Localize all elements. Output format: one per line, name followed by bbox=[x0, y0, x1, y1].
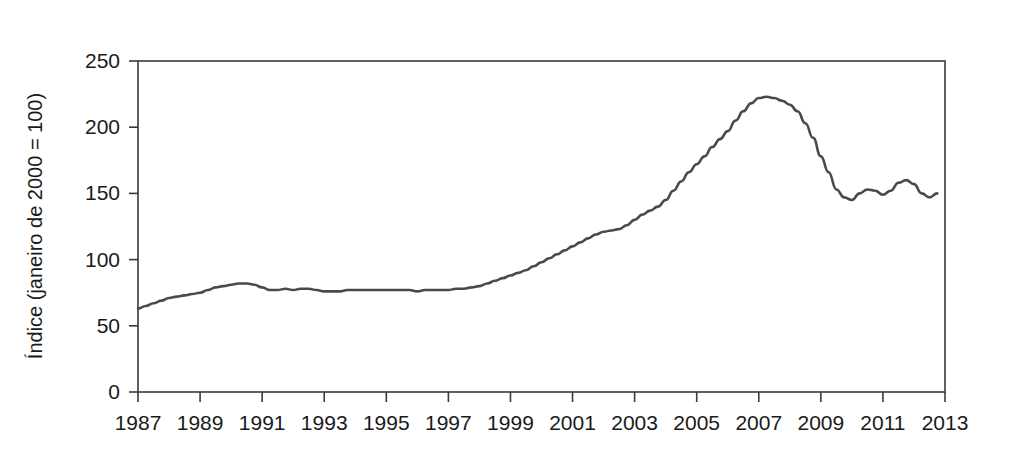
chart-background bbox=[0, 0, 1016, 460]
x-tick-label: 2009 bbox=[797, 411, 844, 434]
y-tick-label: 50 bbox=[97, 314, 120, 337]
y-tick-label: 150 bbox=[85, 181, 120, 204]
house-price-index-chart: Índice (janeiro de 2000 = 100) 050100150… bbox=[0, 0, 1016, 460]
y-tick-label: 200 bbox=[85, 115, 120, 138]
x-tick-label: 1999 bbox=[487, 411, 534, 434]
x-tick-label: 2003 bbox=[611, 411, 658, 434]
y-axis-title-text: Índice (janeiro de 2000 = 100) bbox=[24, 93, 46, 359]
x-tick-label: 2013 bbox=[922, 411, 969, 434]
x-tick-label: 1989 bbox=[177, 411, 224, 434]
x-tick-label: 1997 bbox=[425, 411, 472, 434]
y-axis-title: Índice (janeiro de 2000 = 100) bbox=[24, 93, 46, 359]
x-tick-label: 2011 bbox=[860, 411, 905, 434]
y-tick-label: 250 bbox=[85, 49, 120, 72]
x-tick-label: 1995 bbox=[363, 411, 410, 434]
x-tick-label: 2001 bbox=[549, 411, 596, 434]
y-tick-label: 0 bbox=[108, 380, 120, 403]
x-tick-label: 1987 bbox=[115, 411, 162, 434]
x-tick-label: 1991 bbox=[239, 411, 286, 434]
x-tick-label: 2007 bbox=[735, 411, 782, 434]
x-tick-label: 1993 bbox=[301, 411, 348, 434]
x-tick-label: 2005 bbox=[673, 411, 720, 434]
y-tick-label: 100 bbox=[85, 248, 120, 271]
